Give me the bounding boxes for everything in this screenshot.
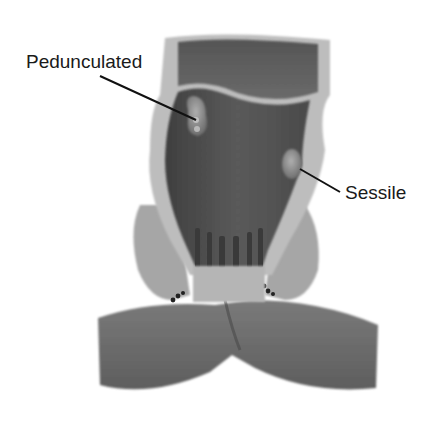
pedunculated-label: Pedunculated bbox=[26, 52, 142, 71]
sessile-polyp bbox=[282, 149, 302, 179]
sessile-label: Sessile bbox=[345, 183, 406, 202]
anatomical-illustration: Pedunculated Sessile bbox=[0, 0, 446, 426]
buttocks bbox=[98, 300, 378, 389]
anal-canal bbox=[193, 266, 265, 302]
